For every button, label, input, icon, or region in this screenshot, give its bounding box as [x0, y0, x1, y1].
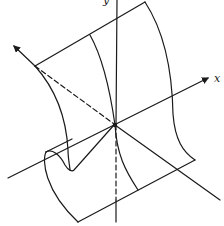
origin-point [113, 123, 117, 127]
surface-left-curve [35, 66, 70, 170]
surface-middle-curve [90, 35, 138, 190]
surface-right-curve [145, 2, 195, 160]
x-axis-label: x [214, 72, 220, 85]
surface-saddle-curve [46, 125, 114, 171]
surface-top-edge [35, 2, 145, 66]
surface-bottom-left-curve [45, 152, 78, 222]
y-axis-label: y [103, 0, 109, 7]
surface-diagram [0, 0, 224, 226]
z-axis-arrow [14, 46, 35, 66]
z-axis-front [115, 125, 220, 200]
x-axis [8, 78, 208, 178]
surface-bottom-edge [78, 160, 195, 222]
z-axis-hidden [35, 66, 114, 124]
